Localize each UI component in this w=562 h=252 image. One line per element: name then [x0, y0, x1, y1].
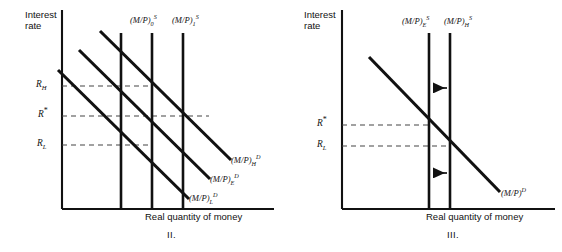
supply-label-0-sup: S — [154, 13, 157, 20]
x-axis-title: Real quantity of money — [145, 212, 242, 223]
demand-curve-E — [79, 50, 210, 179]
tick-R-L-sub: L — [43, 143, 47, 150]
supply-label-H-sup: S — [469, 14, 472, 21]
money-market-figure: Interest rate RH R* RL (M/P)0S (M/P)1S (… — [0, 0, 562, 252]
demand-label-sup: D — [522, 186, 526, 193]
supply-label-1-sub: 1 — [193, 20, 196, 27]
demand-label: (M/P)D — [501, 189, 526, 199]
supply-label-E: (M/P)ES — [402, 17, 429, 27]
demand-label-E-sub: E — [231, 179, 235, 186]
supply-label-E-base: (M/P) — [402, 16, 423, 26]
tick-R-L-sub: L — [323, 144, 327, 151]
y-axis-title-line2: rate — [25, 21, 57, 32]
demand-label-H-sub: H — [252, 160, 256, 167]
supply-label-H: (M/P)HS — [444, 17, 472, 27]
supply-label-E-sub: E — [423, 21, 427, 28]
supply-label-E-sup: S — [426, 14, 429, 21]
demand-label-L: (M/P)LD — [189, 194, 217, 204]
demand-label-H: (M/P)HD — [231, 156, 260, 166]
tick-label-R-star: R* — [317, 118, 327, 129]
y-axis-title: Interest rate — [25, 10, 57, 31]
supply-label-0-base: (M/P) — [130, 15, 151, 25]
panel-II: Interest rate RH R* RL (M/P)0S (M/P)1S (… — [0, 0, 281, 252]
demand-curve-H — [100, 31, 231, 160]
demand-label-base: (M/P) — [501, 188, 522, 198]
tick-R-star-glyph: * — [323, 115, 327, 124]
tick-R-star-glyph: * — [44, 106, 48, 115]
supply-label-1-sup: S — [196, 13, 199, 20]
x-axis-title: Real quantity of money — [426, 212, 523, 223]
supply-label-0: (M/P)0S — [130, 16, 157, 26]
demand-label-L-base: (M/P) — [189, 193, 210, 203]
tick-R-H-sub: H — [42, 84, 47, 91]
demand-label-L-sub: L — [210, 198, 213, 205]
panel-III: Interest rate R* RL (M/P)ES (M/P)HS (M/P… — [281, 0, 562, 252]
tick-label-R-L: RL — [317, 139, 326, 150]
demand-label-H-base: (M/P) — [231, 155, 252, 165]
demand-label-E: (M/P)ED — [210, 175, 239, 185]
demand-label-E-sup: D — [234, 172, 238, 179]
supply-label-H-base: (M/P) — [444, 16, 465, 26]
demand-curve-L — [58, 70, 189, 199]
panel-number-II: II. — [167, 230, 176, 241]
tick-label-R-L: RL — [37, 138, 46, 149]
demand-label-E-base: (M/P) — [210, 174, 231, 184]
y-axis-title: Interest rate — [304, 10, 336, 31]
panel-number-III: III. — [447, 230, 459, 241]
supply-label-1: (M/P)1S — [172, 16, 199, 26]
y-axis-title-line2: rate — [304, 21, 336, 32]
supply-label-H-sub: H — [465, 21, 469, 28]
demand-label-L-sup: D — [213, 191, 217, 198]
supply-label-1-base: (M/P) — [172, 15, 193, 25]
supply-label-0-sub: 0 — [151, 20, 154, 27]
tick-label-R-star: R* — [38, 109, 48, 120]
tick-label-R-H: RH — [36, 79, 47, 90]
demand-label-H-sup: D — [256, 153, 260, 160]
